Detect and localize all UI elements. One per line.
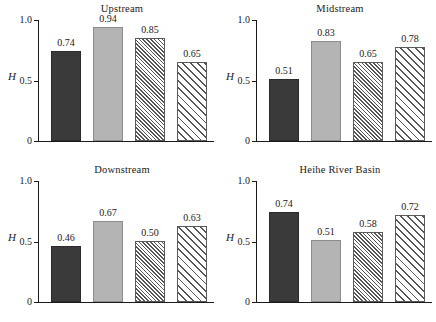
bar-value-label: 0.46	[57, 233, 75, 243]
plot-area-downstream: 1.0 0.5 0 H 0.46 0.67 0.50 0.63	[38, 181, 206, 303]
plot-area-heihe-river-basin: 1.0 0.5 0 H 0.74 0.51 0.58 0.72	[256, 181, 424, 303]
bar-total-flow	[353, 232, 383, 302]
bar-value-label: 0.51	[275, 66, 293, 76]
bar-total-flow	[135, 38, 165, 141]
y-tick-top	[34, 20, 38, 21]
panel-title-heihe-river-basin: Heihe River Basin	[218, 164, 436, 175]
bar-blue-water-flow	[269, 212, 299, 302]
bar-gwc	[395, 215, 425, 302]
bar-value-label: 0.85	[141, 25, 159, 35]
bar-green-water-flow	[93, 221, 123, 302]
bars-downstream: 0.46 0.67 0.50 0.63	[39, 181, 214, 302]
y-tick-label-1: 1.0	[238, 176, 251, 186]
y-tick-label-05: 0.5	[238, 76, 251, 86]
bar-value-label: 0.63	[183, 213, 201, 223]
bar-value-label: 0.67	[99, 208, 117, 218]
y-tick-top	[34, 181, 38, 182]
bar-gwc	[395, 47, 425, 141]
panel-upstream: Upstream 1.0 0.5 0 H 0.74 0.94 0.85 0.65	[0, 0, 218, 161]
bar-value-label: 0.78	[401, 34, 419, 44]
bar-value-label: 0.74	[275, 199, 293, 209]
bar-value-label: 0.65	[359, 49, 377, 59]
y-tick-label-0: 0	[245, 136, 250, 146]
y-tick-label-0: 0	[245, 297, 250, 307]
y-tick-bottom	[252, 302, 256, 303]
bar-gwc	[177, 62, 207, 141]
x-axis-spine	[38, 141, 214, 142]
bar-value-label: 0.50	[141, 228, 159, 238]
bar-value-label: 0.58	[359, 219, 377, 229]
y-tick-mid	[252, 242, 256, 243]
y-tick-label-1: 1.0	[20, 176, 33, 186]
bar-blue-water-flow	[51, 246, 81, 302]
x-axis-spine	[256, 141, 432, 142]
chart-figure: Upstream 1.0 0.5 0 H 0.74 0.94 0.85 0.65…	[0, 0, 436, 322]
bar-value-label: 0.72	[401, 202, 419, 212]
plot-area-midstream: 1.0 0.5 0 H 0.51 0.83 0.65 0.78	[256, 20, 424, 142]
y-tick-bottom	[34, 141, 38, 142]
bars-heihe-river-basin: 0.74 0.51 0.58 0.72	[257, 181, 432, 302]
panel-heihe-river-basin: Heihe River Basin 1.0 0.5 0 H 0.74 0.51 …	[218, 161, 436, 322]
x-axis-spine	[256, 302, 432, 303]
y-tick-top	[252, 20, 256, 21]
bars-upstream: 0.74 0.94 0.85 0.65	[39, 20, 214, 141]
bar-blue-water-flow	[269, 79, 299, 141]
y-tick-label-1: 1.0	[238, 15, 251, 25]
bar-value-label: 0.51	[317, 227, 335, 237]
bar-value-label: 0.83	[317, 28, 335, 38]
y-axis-label: H	[226, 231, 234, 243]
y-axis-label: H	[226, 70, 234, 82]
x-axis-spine	[38, 302, 214, 303]
y-tick-mid	[34, 81, 38, 82]
panel-midstream: Midstream Blue water Flow Green water fl…	[218, 0, 436, 161]
y-tick-label-0: 0	[27, 297, 32, 307]
bar-blue-water-flow	[51, 51, 81, 141]
panel-downstream: Downstream 1.0 0.5 0 H 0.46 0.67 0.50 0.…	[0, 161, 218, 322]
bar-gwc	[177, 226, 207, 302]
y-axis-label: H	[8, 70, 16, 82]
y-tick-label-0: 0	[27, 136, 32, 146]
y-tick-mid	[34, 242, 38, 243]
y-tick-label-1: 1.0	[20, 15, 33, 25]
panel-title-downstream: Downstream	[0, 164, 218, 175]
bar-green-water-flow	[311, 240, 341, 302]
bars-midstream: 0.51 0.83 0.65 0.78	[257, 20, 432, 141]
y-tick-label-05: 0.5	[20, 76, 33, 86]
bar-value-label: 0.94	[99, 14, 117, 24]
y-axis-label: H	[8, 231, 16, 243]
y-tick-top	[252, 181, 256, 182]
bar-green-water-flow	[311, 41, 341, 141]
bar-green-water-flow	[93, 27, 123, 141]
bar-total-flow	[353, 62, 383, 141]
y-tick-label-05: 0.5	[20, 237, 33, 247]
bar-value-label: 0.65	[183, 49, 201, 59]
panel-title-midstream: Midstream	[218, 3, 436, 14]
y-tick-mid	[252, 81, 256, 82]
plot-area-upstream: 1.0 0.5 0 H 0.74 0.94 0.85 0.65	[38, 20, 206, 142]
y-tick-bottom	[252, 141, 256, 142]
bar-total-flow	[135, 241, 165, 302]
y-tick-label-05: 0.5	[238, 237, 251, 247]
bar-value-label: 0.74	[57, 38, 75, 48]
y-tick-bottom	[34, 302, 38, 303]
